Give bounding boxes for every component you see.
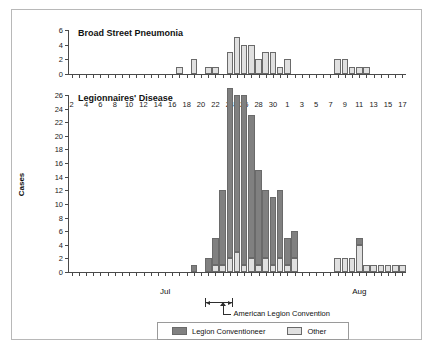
top-x-tick bbox=[395, 75, 396, 78]
x-tick-label: 2 bbox=[70, 100, 74, 109]
legend-item-legion: Legion Conventioneer bbox=[172, 327, 265, 336]
top-bar bbox=[284, 59, 291, 74]
bar-segment-legion bbox=[227, 88, 234, 258]
top-x-tick bbox=[352, 75, 353, 78]
epidemic-curve-figure: Broad Street Pneumonia 0246 Legionnaires… bbox=[0, 0, 434, 350]
top-x-tick bbox=[208, 75, 209, 78]
bar-segment-other bbox=[212, 265, 219, 272]
main-x-tick bbox=[388, 273, 389, 276]
top-x-tick bbox=[345, 75, 346, 78]
main-x-tick bbox=[309, 273, 310, 276]
x-tick-label: 16 bbox=[168, 100, 176, 109]
bar-segment-other bbox=[270, 265, 277, 272]
convention-caption: American Legion Convention bbox=[234, 309, 330, 318]
bar-segment-legion bbox=[255, 170, 262, 265]
top-panel-title: Broad Street Pneumonia bbox=[78, 28, 183, 38]
main-x-tick bbox=[158, 273, 159, 276]
main-bar bbox=[234, 95, 241, 272]
main-y-tick-label: 12 bbox=[55, 186, 63, 195]
top-bar bbox=[248, 45, 255, 74]
broad-street-pneumonia-chart: Broad Street Pneumonia 0246 bbox=[68, 30, 406, 75]
top-bar bbox=[262, 52, 269, 74]
top-x-tick bbox=[388, 75, 389, 78]
top-y-tick-label: 6 bbox=[59, 26, 63, 35]
main-x-tick bbox=[108, 273, 109, 276]
main-y-tick bbox=[65, 218, 68, 219]
main-bar bbox=[255, 170, 262, 272]
bar-segment-legion bbox=[241, 95, 248, 265]
top-x-tick bbox=[302, 75, 303, 78]
top-x-tick bbox=[108, 75, 109, 78]
main-x-tick bbox=[93, 273, 94, 276]
bracket-right-cap bbox=[232, 298, 233, 307]
legend-label-other: Other bbox=[307, 327, 326, 336]
bar-segment-other bbox=[241, 265, 248, 272]
main-bar bbox=[227, 88, 234, 272]
bar-segment-other bbox=[385, 265, 392, 272]
main-x-tick bbox=[330, 273, 331, 276]
x-tick-label: 3 bbox=[300, 100, 304, 109]
x-tick-label: 15 bbox=[384, 100, 392, 109]
main-bar bbox=[356, 238, 363, 272]
bar-segment-other bbox=[255, 265, 262, 272]
top-x-tick bbox=[280, 75, 281, 78]
main-x-tick bbox=[295, 273, 296, 276]
main-y-tick bbox=[65, 95, 68, 96]
main-bar bbox=[241, 95, 248, 272]
main-x-tick bbox=[366, 273, 367, 276]
x-tick-label: 14 bbox=[154, 100, 162, 109]
top-x-tick bbox=[402, 75, 403, 78]
top-y-tick bbox=[65, 30, 68, 31]
main-y-tick-label: 0 bbox=[59, 268, 63, 277]
top-bar bbox=[277, 67, 284, 74]
bar-segment-legion bbox=[191, 265, 198, 272]
x-tick-label: 11 bbox=[355, 100, 363, 109]
top-bar bbox=[255, 59, 262, 74]
bar-segment-other bbox=[349, 258, 356, 272]
bar-segment-other bbox=[334, 258, 341, 272]
main-y-tick bbox=[65, 190, 68, 191]
main-y-tick-label: 16 bbox=[55, 159, 63, 168]
main-x-tick bbox=[215, 273, 216, 276]
main-x-tick bbox=[151, 273, 152, 276]
top-x-tick bbox=[144, 75, 145, 78]
main-x-tick bbox=[122, 273, 123, 276]
main-y-tick bbox=[65, 177, 68, 178]
y-axis-title: Cases bbox=[17, 173, 26, 197]
main-bar bbox=[399, 265, 406, 272]
month-label-aug: Aug bbox=[352, 287, 366, 296]
bar-segment-other bbox=[277, 258, 284, 272]
legend-label-legion: Legion Conventioneer bbox=[192, 327, 265, 336]
main-y-tick-label: 20 bbox=[55, 131, 63, 140]
top-x-tick bbox=[273, 75, 274, 78]
main-x-tick bbox=[345, 273, 346, 276]
bar-segment-legion bbox=[219, 190, 226, 265]
x-tick-label: 13 bbox=[369, 100, 377, 109]
top-x-tick bbox=[266, 75, 267, 78]
top-x-tick bbox=[330, 75, 331, 78]
main-bar bbox=[363, 265, 370, 272]
bar-segment-other bbox=[248, 258, 255, 272]
main-y-tick bbox=[65, 109, 68, 110]
main-x-tick bbox=[208, 273, 209, 276]
top-x-tick bbox=[100, 75, 101, 78]
main-x-tick bbox=[72, 273, 73, 276]
bar-segment-other bbox=[392, 265, 399, 272]
bar-segment-legion bbox=[234, 95, 241, 252]
main-x-tick bbox=[201, 273, 202, 276]
bar-segment-other bbox=[291, 258, 298, 272]
main-x-tick bbox=[338, 273, 339, 276]
main-y-tick-label: 6 bbox=[59, 227, 63, 236]
main-x-tick bbox=[194, 273, 195, 276]
x-tick-label: 10 bbox=[125, 100, 133, 109]
x-tick-label: 6 bbox=[98, 100, 102, 109]
legend-swatch-other bbox=[287, 327, 302, 335]
main-bar bbox=[349, 258, 356, 272]
legend-swatch-legion bbox=[172, 327, 187, 335]
x-tick-label: 9 bbox=[343, 100, 347, 109]
bar-segment-legion bbox=[205, 258, 212, 272]
x-tick-label: 7 bbox=[328, 100, 332, 109]
bar-segment-legion bbox=[248, 115, 255, 258]
bar-segment-other bbox=[227, 258, 234, 272]
x-tick-label: 22 bbox=[211, 100, 219, 109]
